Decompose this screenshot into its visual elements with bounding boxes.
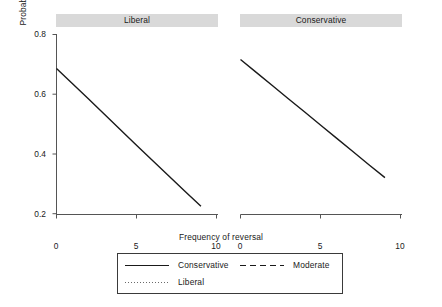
x-tick-label: 5 xyxy=(128,242,144,250)
x-axis-spine xyxy=(241,215,403,219)
y-axis-spine xyxy=(53,34,57,215)
x-tick-label: 5 xyxy=(312,242,328,250)
plot-svg-liberal xyxy=(56,33,218,215)
x-tick-label: 10 xyxy=(208,242,224,250)
legend-label: Moderate xyxy=(293,261,330,269)
legend-key-dashed-line-icon xyxy=(240,260,284,270)
legend-key-dotted-line-icon xyxy=(125,277,169,287)
y-tick-label: 0.6 xyxy=(24,90,46,98)
legend-row: Liberal xyxy=(118,274,344,290)
x-tick-label: 10 xyxy=(392,242,408,250)
legend-entry-liberal: Liberal xyxy=(125,274,204,290)
plot-area-liberal: 0 5 10 xyxy=(56,33,218,215)
y-tick-label: 0.2 xyxy=(24,210,46,218)
panel-strip-label: Conservative xyxy=(296,16,347,24)
x-axis-title: Frequency of reversal xyxy=(0,232,442,242)
x-axis-spine xyxy=(57,215,219,219)
legend-entry-conservative: Conservative xyxy=(125,257,229,273)
x-tick-label: 0 xyxy=(232,242,248,250)
legend-key-solid-line-icon xyxy=(125,260,169,270)
panel-strip-conservative: Conservative xyxy=(240,14,402,27)
x-tick-label: 0 xyxy=(48,242,64,250)
y-axis-tick-labels: 0.8 0.6 0.4 0.2 xyxy=(22,0,46,307)
plot-svg-conservative xyxy=(240,33,402,215)
legend-entry-moderate: Moderate xyxy=(240,257,330,273)
panel-strip-liberal: Liberal xyxy=(56,14,218,27)
legend-label: Liberal xyxy=(178,278,204,286)
data-line-liberal-conservative xyxy=(57,68,201,206)
legend-label: Conservative xyxy=(178,261,229,269)
chart-figure: Probability that state wins 0.8 0.6 0.4 … xyxy=(0,0,442,307)
chart-legend: Conservative Moderate Liberal xyxy=(117,253,343,294)
y-tick-label: 0.8 xyxy=(24,30,46,38)
legend-row: Conservative Moderate xyxy=(118,257,344,273)
plot-area-conservative: 0 5 10 xyxy=(240,33,402,215)
y-tick-label: 0.4 xyxy=(24,150,46,158)
data-line-conservative-conservative xyxy=(241,59,385,177)
panel-strip-label: Liberal xyxy=(124,16,150,24)
